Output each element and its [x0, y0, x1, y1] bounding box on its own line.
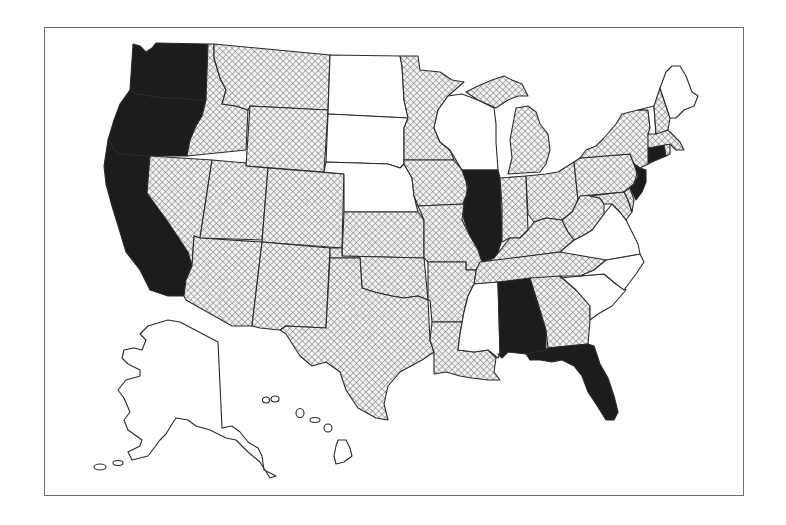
state-AK [118, 320, 276, 478]
state-HI-island-1 [263, 397, 270, 403]
state-WY [246, 106, 328, 172]
state-WA [130, 43, 208, 100]
state-NM [252, 242, 330, 330]
state-HI-island-2 [271, 396, 279, 402]
state-FL [526, 344, 618, 420]
state-KS [342, 212, 424, 258]
state-SD [326, 114, 408, 168]
state-AZ [184, 236, 262, 326]
state-AK-island-1 [94, 464, 106, 470]
us-map [0, 0, 786, 525]
state-UT [200, 160, 268, 240]
state-ND [328, 55, 408, 118]
state-HI-island-3 [296, 409, 304, 418]
state-CO [262, 168, 344, 248]
state-AK-island-2 [113, 461, 123, 466]
state-HI-island-4 [310, 418, 320, 423]
state-IN [500, 176, 528, 242]
state-MI-lower [508, 106, 550, 174]
state-HI-island-5 [324, 424, 332, 432]
state-HI-big-island [334, 440, 352, 464]
state-MT [214, 44, 330, 110]
